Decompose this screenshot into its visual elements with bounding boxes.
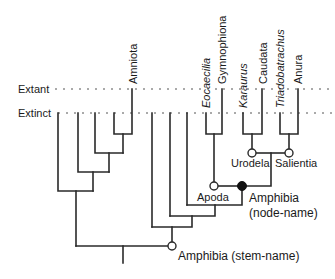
amphibia-node-label: Amphibia (249, 191, 299, 205)
stem-node-2 (152, 216, 192, 227)
taxon-label-triadobatrachus: Triadobatrachus (274, 29, 286, 108)
taxon-label-eocaecilia: Eocaecilia (200, 58, 212, 108)
amphibia-stem-label: Amphibia (stem-name) (178, 249, 299, 263)
stem-amphibian-branches (152, 113, 187, 227)
cladogram-figure: Extant Extinct Amniota Eocaecilia Gymnop… (0, 0, 335, 279)
apoda-node-open-circle-icon (210, 182, 218, 190)
amniote-clade-branches (58, 89, 132, 246)
salientia-label: Salientia (275, 157, 318, 169)
apoda-label: Apoda (197, 191, 230, 203)
extant-label: Extant (18, 83, 49, 95)
taxon-label-anura: Anura (292, 54, 304, 84)
urodela-node-open-circle-icon (248, 149, 256, 157)
taxon-label-amniota: Amniota (127, 43, 139, 84)
urodela-label: Urodela (231, 157, 270, 169)
extinct-label: Extinct (18, 107, 51, 119)
amphibia-node-filled-circle-icon (238, 182, 247, 191)
amphibia-stem-open-circle-icon (168, 242, 176, 250)
amphibia-node-name-label: (node-name) (249, 206, 318, 220)
taxon-label-karaurus: Karaurus (237, 63, 249, 108)
taxon-label-caudata: Caudata (257, 42, 269, 84)
stem-node-1 (170, 205, 215, 216)
salientia-node-open-circle-icon (285, 149, 293, 157)
taxon-label-gymnophiona: Gymnophiona (216, 15, 228, 84)
